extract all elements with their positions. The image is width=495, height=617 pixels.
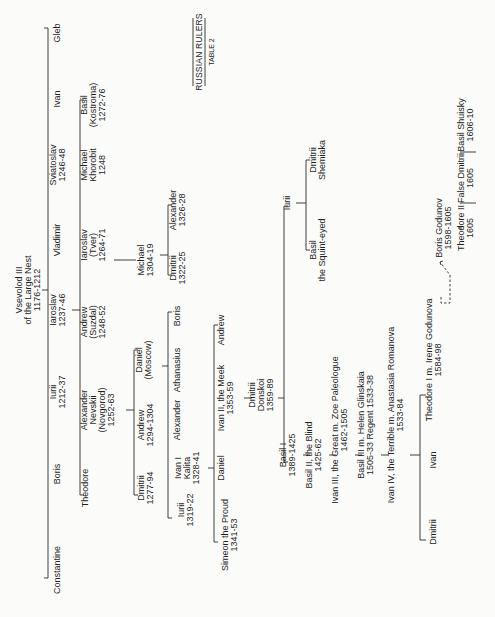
ruler-name: Andrew [216, 314, 226, 345]
ruler-node-dmitrii-1277: Dmitrii1277-94 [136, 471, 155, 504]
ruler-node-iurii-g1: Iurii1212-37 [48, 375, 67, 408]
ruler-node-boris-g4: Boris [172, 305, 182, 326]
ruler-detail: (Moscow) [143, 340, 153, 379]
ruler-node-vladimir: Vladimir [52, 224, 62, 257]
ruler-node-ivan-g1: Ivan [52, 90, 62, 107]
ruler-name: Boris [172, 305, 182, 326]
ruler-name: Iurii [282, 196, 292, 211]
ruler-name: Boris [52, 463, 62, 484]
ruler-node-iurii-g7: Iurii [282, 196, 292, 211]
ruler-node-constantine: Constantine [52, 546, 62, 594]
ruler-node-andrew-g5: Andrew [216, 314, 226, 345]
ruler-name: Dmitrii [428, 519, 438, 545]
ruler-name: Alexander [172, 400, 182, 441]
ruler-name: Gleb [52, 23, 62, 42]
connector-lines [42, 28, 476, 578]
ruler-node-daniel-moscow: Daniel(Moscow) [134, 340, 153, 379]
ruler-node-basil-1: Basil I1389-1425 [278, 433, 297, 476]
table-title: RUSSIAN RULERS TABLE 2 [193, 13, 215, 91]
ruler-node-alexander-g4: Alexander [172, 400, 182, 441]
ruler-name: Daniel [216, 455, 226, 481]
ruler-detail: 1462-1505 [339, 408, 349, 451]
ruler-detail: 1304-19 [145, 243, 155, 276]
ruler-node-andrew-suzdal: Andrew(Suzdal)1248-52 [79, 305, 107, 339]
subtitle-text: TABLE 2 [208, 38, 215, 66]
ruler-detail: 1584-98 [433, 343, 443, 376]
ruler-node-ivan-meek: Ivan II, the Meek1353-59 [216, 364, 235, 431]
ruler-detail: 1212-37 [57, 375, 67, 408]
ruler-node-basil-2: Basil II, the Blind1425-62 [304, 421, 323, 488]
ruler-detail: 1248 [97, 155, 107, 175]
ruler-detail: Shemiaka [317, 140, 327, 180]
ruler-detail: 1272-76 [97, 88, 107, 121]
ruler-node-sviatoslav: Sviatoslav1246-48 [48, 144, 67, 186]
ruler-node-ivan-g12: Ivan [428, 451, 438, 468]
ruler-node-iaroslav: Iaroslav1237-46 [48, 293, 67, 326]
ruler-node-daniel-g5: Daniel [216, 455, 226, 481]
ruler-detail: 1326-28 [177, 193, 187, 226]
ruler-node-ivan-4: Ivan IV, the Terrible m. Anastasia Roman… [386, 327, 405, 504]
ruler-detail: 1353-59 [225, 381, 235, 414]
ruler-detail: 1598-1605 [443, 206, 453, 249]
ruler-detail: 1328-41 [191, 451, 201, 484]
ruler-node-michael-tver: Michael1304-19 [136, 243, 155, 276]
ruler-detail: 1277-94 [145, 471, 155, 504]
ruler-node-basil-squint: Basilthe Squint-eyed [308, 218, 327, 281]
ruler-detail: 1252-63 [106, 393, 116, 426]
ruler-node-alexander-nevskii: AlexanderNevskii(Novgorod)1252-63 [79, 387, 116, 432]
ruler-node-theodore-1: Theodore I m. Irene Godunova1584-98 [424, 298, 443, 421]
ruler-detail: 1246-48 [57, 148, 67, 181]
ruler-node-theodore-2: Theodore II1605 [456, 205, 475, 251]
ruler-node-boris-g1: Boris [52, 463, 62, 484]
ruler-name: Constantine [52, 546, 62, 594]
ruler-node-michael-khorobit: MichaelKhorobit1248 [79, 148, 107, 182]
ruler-nodes: GlebIvanSviatoslav1246-48VladimirIarosla… [48, 23, 475, 594]
ruler-node-ivan-3: Ivan III, the Great m. Zoe Paleologue146… [330, 356, 349, 504]
ruler-node-dmitrii-g12: Dmitrii [428, 519, 438, 545]
ruler-detail: the Squint-eyed [317, 218, 327, 281]
ruler-name: Ivan [52, 90, 62, 107]
svg-text:1176-1212: 1176-1212 [32, 269, 42, 311]
ruler-detail: 1605 [465, 218, 475, 238]
ruler-node-false-dmitrii: False Dmitrii1605 [456, 153, 475, 203]
ruler-node-iurii-1319: Iurii1319-22 [176, 493, 195, 526]
ruler-detail: 1359-89 [265, 378, 275, 411]
ruler-name: Theodore [80, 469, 90, 508]
ruler-node-gleb: Gleb [52, 23, 62, 42]
ruler-node-dmitrii-shemiaka: DmitriiShemiaka [308, 140, 327, 180]
ruler-detail: 1319-22 [185, 493, 195, 526]
ruler-detail: 1389-1425 [287, 433, 297, 476]
ruler-node-dmitrii-donskoi: DmitriiDonskoi1359-89 [247, 378, 275, 411]
ruler-node-ivan-kalita: Ivan IKalita1328-41 [173, 451, 201, 484]
ruler-detail: 1322-25 [177, 251, 187, 284]
ruler-node-athanasius: Athanasius [172, 347, 182, 392]
ruler-node-andrew-1294: Andrew1294-1304 [136, 403, 155, 446]
ruler-detail: 1248-52 [97, 305, 107, 338]
ruler-node-basil-kostroma: Basil(Kostroma)1272-76 [79, 83, 107, 128]
ruler-detail: 1505-33 Regent 1533-38 [365, 375, 375, 475]
ruler-detail: 1533-84 [395, 398, 405, 431]
ruler-name: Ivan [428, 451, 438, 468]
ruler-detail: 1341-53 [229, 518, 239, 551]
ruler-node-simeon: Simeon the Proud1341-53 [220, 499, 239, 571]
ruler-node-alexander-1326: Alexander1326-28 [168, 190, 187, 231]
russian-rulers-genealogy-diagram: RUSSIAN RULERS TABLE 2 Vsevolod III of t… [0, 0, 495, 617]
title-text: RUSSIAN RULERS [194, 13, 204, 91]
ruler-node-basil-3: Basil III m. Helen Glinskaia1505-33 Rege… [356, 371, 375, 479]
ruler-detail: 1294-1304 [145, 403, 155, 446]
ruler-detail: 1264-71 [97, 228, 107, 261]
ruler-detail: 1237-46 [57, 293, 67, 326]
ruler-detail: 1605 [465, 168, 475, 188]
ruler-node-dmitrii-1322: Dmitrii1322-25 [168, 251, 187, 284]
ruler-detail: 1606-10 [465, 108, 475, 141]
ruler-node-iaroslav-tver: Iaroslav(Tver)1264-71 [79, 228, 107, 261]
ruler-name: Vladimir [52, 224, 62, 257]
ruler-node-basil-shuisky: Basil Shuisky1606-10 [456, 98, 475, 152]
ruler-name: Athanasius [172, 347, 182, 392]
ruler-detail: 1425-62 [313, 438, 323, 471]
ruler-node-theodore-g2: Theodore [80, 469, 90, 508]
ruler-node-boris-godunov: Boris Godunov1598-1605 [434, 198, 453, 258]
root-node-vsevolod-iii: Vsevolod III of the Large Nest 1176-1212 [14, 255, 42, 325]
